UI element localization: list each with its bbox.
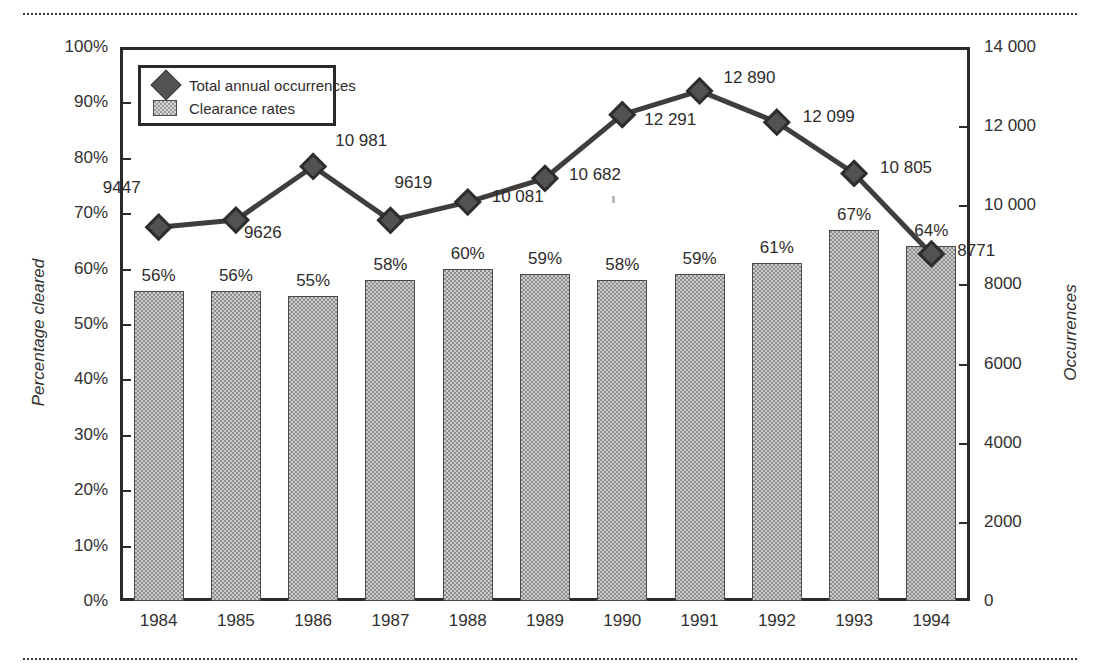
right-axis-tick-mark <box>959 443 970 445</box>
bar-clearance-rate <box>829 230 879 601</box>
bar-value-label: 56% <box>122 267 196 284</box>
right-axis-tick-mark <box>959 205 970 207</box>
right-axis-tick-label: 12 000 <box>984 117 1036 134</box>
bar-value-label: 64% <box>894 222 968 239</box>
x-axis-label: 1985 <box>199 612 273 629</box>
bar-clearance-rate <box>211 291 261 601</box>
x-axis-label: 1986 <box>276 612 350 629</box>
bar-value-label: 58% <box>353 256 427 273</box>
bar-value-label: 58% <box>585 256 659 273</box>
bar-clearance-rate <box>520 274 570 601</box>
left-axis-tick-mark <box>120 490 131 492</box>
left-axis-tick-label: 40% <box>8 370 108 387</box>
bar-clearance-rate <box>288 296 338 601</box>
bar-value-label: 60% <box>431 245 505 262</box>
x-axis-label: 1987 <box>353 612 427 629</box>
bar-value-label: 59% <box>663 250 737 267</box>
chart-legend: Total annual occurrences Clearance rates <box>138 65 336 126</box>
legend-label-clearance: Clearance rates <box>189 101 295 116</box>
bar-value-label: 55% <box>276 272 350 289</box>
x-axis-label: 1991 <box>663 612 737 629</box>
scan-speck <box>612 196 615 203</box>
left-axis-tick-label: 80% <box>8 149 108 166</box>
right-axis-tick-mark <box>959 126 970 128</box>
left-axis-tick-label: 60% <box>8 260 108 277</box>
right-axis-tick-label: 4000 <box>984 434 1022 451</box>
left-axis-tick-label: 20% <box>8 481 108 498</box>
line-value-label: 10 081 <box>492 188 544 205</box>
left-axis-tick-label: 70% <box>8 204 108 221</box>
left-axis-tick-mark <box>120 213 131 215</box>
bar-value-label: 59% <box>508 250 582 267</box>
line-value-label: 9619 <box>394 174 432 191</box>
bar-clearance-rate <box>134 291 184 601</box>
right-axis-tick-label: 0 <box>984 592 993 609</box>
line-value-label: 12 890 <box>724 69 776 86</box>
left-axis-tick-label: 0% <box>8 592 108 609</box>
x-axis-label: 1992 <box>740 612 814 629</box>
right-axis-tick-label: 6000 <box>984 355 1022 372</box>
legend-label-occurrences: Total annual occurrences <box>189 78 356 93</box>
left-axis-tick-label: 10% <box>8 537 108 554</box>
x-axis-label: 1993 <box>817 612 891 629</box>
line-value-label: 12 099 <box>803 108 855 125</box>
left-axis-title: Percentage cleared <box>30 243 47 423</box>
line-value-label: 9447 <box>103 179 141 196</box>
left-axis-tick-label: 100% <box>8 38 108 55</box>
left-axis-tick-label: 30% <box>8 426 108 443</box>
right-axis-title: Occurrences <box>1062 243 1079 423</box>
right-axis-tick-label: 10 000 <box>984 196 1036 213</box>
x-axis-label: 1994 <box>894 612 968 629</box>
x-axis-label: 1988 <box>431 612 505 629</box>
left-axis-tick-label: 90% <box>8 93 108 110</box>
line-value-label: 8771 <box>957 242 995 259</box>
bar-swatch-icon <box>153 100 177 116</box>
bar-clearance-rate <box>675 274 725 601</box>
left-axis-tick-mark <box>120 546 131 548</box>
line-value-label: 10 981 <box>335 132 387 149</box>
left-axis-tick-mark <box>120 158 131 160</box>
bar-clearance-rate <box>443 269 493 601</box>
bar-value-label: 61% <box>740 239 814 256</box>
right-axis-tick-label: 14 000 <box>984 38 1036 55</box>
x-axis-label: 1989 <box>508 612 582 629</box>
legend-item-clearance: Clearance rates <box>152 100 295 116</box>
bar-clearance-rate <box>597 280 647 601</box>
left-axis-tick-mark <box>120 379 131 381</box>
bar-clearance-rate <box>752 263 802 601</box>
bar-value-label: 56% <box>199 267 273 284</box>
right-axis-tick-mark <box>959 364 970 366</box>
bar-value-label: 67% <box>817 206 891 223</box>
bar-clearance-rate <box>365 280 415 601</box>
line-value-label: 10 805 <box>880 159 932 176</box>
line-value-label: 9626 <box>244 224 282 241</box>
x-axis-label: 1990 <box>585 612 659 629</box>
line-value-label: 12 291 <box>644 111 696 128</box>
line-value-label: 10 682 <box>569 166 621 183</box>
bar-clearance-rate <box>906 246 956 601</box>
combo-chart: 0%10%20%30%40%50%60%70%80%90%100% 020004… <box>0 0 1098 668</box>
right-axis-tick-mark <box>959 522 970 524</box>
x-axis-label: 1984 <box>122 612 196 629</box>
diamond-icon <box>150 69 181 100</box>
left-axis-tick-mark <box>120 435 131 437</box>
right-axis-tick-label: 2000 <box>984 513 1022 530</box>
legend-item-occurrences: Total annual occurrences <box>152 74 356 96</box>
left-axis-tick-mark <box>120 102 131 104</box>
left-axis-tick-label: 50% <box>8 315 108 332</box>
right-axis-tick-label: 8000 <box>984 275 1022 292</box>
right-axis-tick-mark <box>959 284 970 286</box>
left-axis-tick-mark <box>120 324 131 326</box>
